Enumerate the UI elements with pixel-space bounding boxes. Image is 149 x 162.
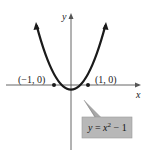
parabola-graph: x y (−1, 0) (1, 0) y = x2 − 1 bbox=[0, 0, 149, 162]
y-axis-arrow-icon bbox=[69, 13, 74, 19]
point-neg1-0 bbox=[52, 83, 56, 87]
y-axis-label: y bbox=[61, 11, 67, 22]
point-label-left: (−1, 0) bbox=[18, 74, 45, 86]
callout-leader bbox=[84, 100, 102, 118]
point-1-0 bbox=[86, 83, 90, 87]
x-axis-label: x bbox=[135, 89, 141, 100]
curve-arrow-right-icon bbox=[103, 22, 109, 30]
curve-arrow-left-icon bbox=[34, 22, 40, 30]
x-axis-arrow-icon bbox=[135, 83, 141, 88]
equation-label: y = x2 − 1 bbox=[87, 121, 127, 133]
point-label-right: (1, 0) bbox=[95, 74, 117, 86]
